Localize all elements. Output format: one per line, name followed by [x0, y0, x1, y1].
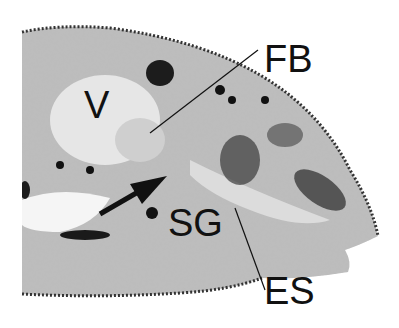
label-fb: FB: [264, 40, 313, 78]
label-v: V: [84, 86, 109, 124]
micrograph: [0, 0, 399, 328]
label-es: ES: [264, 272, 315, 310]
specimen-section: [0, 0, 399, 328]
label-sg: SG: [168, 204, 223, 242]
